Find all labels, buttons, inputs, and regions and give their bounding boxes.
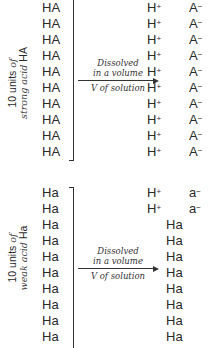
reactant-molecule: HA — [42, 128, 70, 144]
hydrogen-ion: H+ — [147, 201, 161, 217]
undissociated-molecule: Ha — [166, 217, 183, 233]
anion: A− — [189, 144, 202, 160]
reactant-molecule: Ha — [42, 329, 70, 345]
weak-acid-reaction-arrow: Dissolved in a volume V of solution — [78, 246, 158, 281]
weak-acid-dissociated-anions: a− a− — [189, 185, 201, 217]
label-formula: HA — [17, 47, 29, 62]
anion: A− — [189, 32, 202, 48]
reactant-molecule: HA — [42, 16, 70, 32]
anion: A− — [189, 0, 202, 16]
strong-acid-side-label: 10 units of strong acid HA — [0, 0, 36, 165]
hydrogen-ion: H+ — [147, 128, 161, 144]
weak-acid-dissociated-cations: H+ H+ — [147, 185, 161, 217]
undissociated-molecule: Ha — [166, 249, 183, 265]
hydrogen-ion: H+ — [147, 16, 161, 32]
weak-acid-bracket — [69, 187, 74, 348]
label-count: 10 units — [6, 67, 18, 107]
hydrogen-ion: H+ — [147, 96, 161, 112]
reactant-molecule: HA — [42, 144, 70, 160]
reactant-molecule: Ha — [42, 217, 70, 233]
label-acid-type: strong acid — [18, 61, 29, 118]
anion: a− — [189, 185, 201, 201]
hydrogen-ion: H+ — [147, 32, 161, 48]
arrow-label-line1: Dissolved — [78, 246, 158, 256]
arrow-label-line2: in a volume — [78, 256, 158, 266]
strong-acid-cation-column: H+ H+ H+ H+ H+ H+ H+ H+ H+ H+ — [147, 0, 161, 160]
reactant-molecule: Ha — [42, 249, 70, 265]
reactant-molecule: Ha — [42, 233, 70, 249]
anion: A− — [189, 128, 202, 144]
reactant-molecule: HA — [42, 80, 70, 96]
undissociated-molecule: Ha — [166, 297, 183, 313]
hydrogen-ion: H+ — [147, 64, 161, 80]
arrow-label-line1: Dissolved — [78, 58, 158, 68]
reactant-molecule: HA — [42, 96, 70, 112]
undissociated-molecule: Ha — [166, 281, 183, 297]
anion: A− — [189, 48, 202, 64]
undissociated-molecule: Ha — [166, 265, 183, 281]
anion: A− — [189, 96, 202, 112]
label-acid-type: weak acid — [18, 239, 29, 290]
label-formula: Ha — [17, 226, 29, 239]
arrow-label-line3: V of solution — [78, 271, 158, 281]
undissociated-molecule: Ha — [166, 233, 183, 249]
reactant-molecule: HA — [42, 32, 70, 48]
hydrogen-ion: H+ — [147, 112, 161, 128]
reactant-molecule: Ha — [42, 297, 70, 313]
reactant-molecule: HA — [42, 112, 70, 128]
anion: A− — [189, 64, 202, 80]
undissociated-molecule: Ha — [166, 313, 183, 329]
strong-acid-reactant-stack: HA HA HA HA HA HA HA HA HA HA — [42, 0, 70, 160]
anion: a− — [189, 201, 201, 217]
weak-acid-undissociated-column: Ha Ha Ha Ha Ha Ha Ha Ha — [166, 217, 183, 345]
anion: A− — [189, 16, 202, 32]
arrow-right-icon — [78, 80, 154, 81]
reactant-molecule: Ha — [42, 281, 70, 297]
arrow-right-icon — [78, 268, 154, 269]
arrow-label-line3: V of solution — [78, 83, 158, 93]
strong-acid-anion-column: A− A− A− A− A− A− A− A− A− A− — [189, 0, 202, 160]
strong-acid-reaction-arrow: Dissolved in a volume V of solution — [78, 58, 158, 93]
hydrogen-ion: H+ — [147, 48, 161, 64]
reactant-molecule: HA — [42, 48, 70, 64]
reactant-molecule: Ha — [42, 201, 70, 217]
hydrogen-ion: H+ — [147, 144, 161, 160]
undissociated-molecule: Ha — [166, 329, 183, 345]
weak-acid-panel: 10 units of weak acid Ha Ha Ha Ha Ha Ha … — [0, 175, 208, 341]
reactant-molecule: HA — [42, 64, 70, 80]
reactant-molecule: Ha — [42, 313, 70, 329]
reactant-molecule: HA — [42, 0, 70, 16]
weak-acid-reactant-stack: Ha Ha Ha Ha Ha Ha Ha Ha Ha Ha — [42, 185, 70, 345]
strong-acid-panel: 10 units of strong acid HA HA HA HA HA H… — [0, 0, 208, 165]
reactant-molecule: Ha — [42, 265, 70, 281]
label-count: 10 units — [6, 243, 18, 283]
hydrogen-ion: H+ — [147, 80, 161, 96]
anion: A− — [189, 80, 202, 96]
reactant-molecule: Ha — [42, 185, 70, 201]
anion: A− — [189, 112, 202, 128]
strong-acid-bracket — [69, 0, 74, 161]
weak-acid-side-label: 10 units of weak acid Ha — [0, 175, 36, 341]
arrow-label-line2: in a volume — [78, 68, 158, 78]
hydrogen-ion: H+ — [147, 0, 161, 16]
hydrogen-ion: H+ — [147, 185, 161, 201]
